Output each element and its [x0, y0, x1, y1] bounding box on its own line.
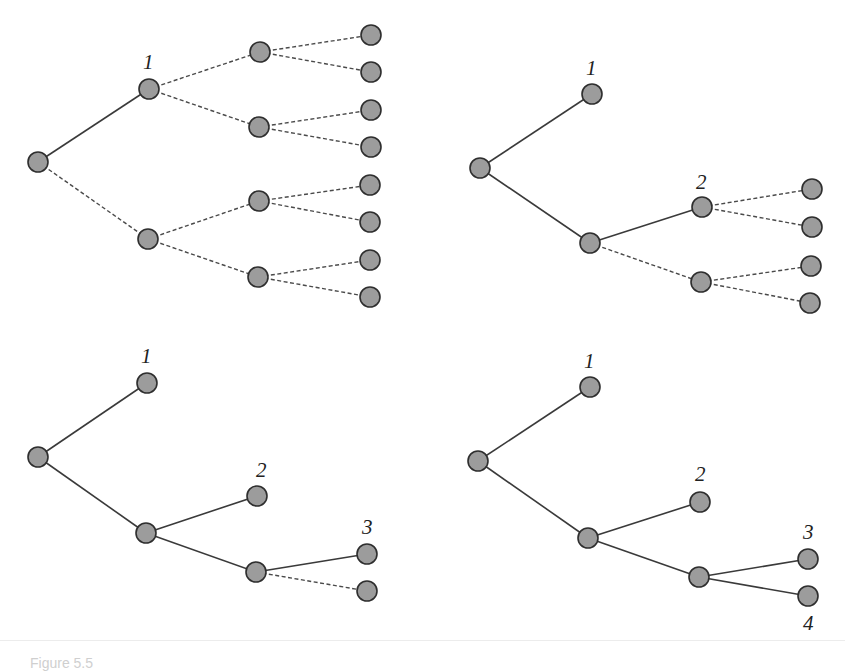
tree-node: [250, 42, 270, 62]
panel-2: 12: [470, 56, 822, 313]
tree-node: [580, 233, 600, 253]
tree-node: [800, 293, 820, 313]
dashed-edge: [259, 201, 370, 222]
dashed-edge: [701, 282, 810, 303]
dashed-edge: [258, 277, 370, 297]
node-order-label: 2: [256, 458, 267, 482]
tree-node: [690, 492, 710, 512]
solid-edge: [146, 533, 256, 572]
panel-3: 123: [28, 344, 377, 601]
dashed-edge: [702, 207, 812, 227]
solid-edge: [38, 383, 147, 457]
solid-edge: [699, 559, 808, 577]
tree-node: [361, 25, 381, 45]
dashed-edge: [702, 189, 812, 207]
dashed-edge: [38, 162, 148, 239]
node-order-label: 1: [584, 349, 595, 373]
solid-edge: [478, 461, 588, 538]
tree-node: [361, 137, 381, 157]
tree-node: [357, 581, 377, 601]
solid-edge: [256, 554, 367, 572]
root-node: [28, 152, 48, 172]
solid-edge: [38, 457, 146, 533]
solid-edge: [699, 577, 808, 596]
dashed-edge: [590, 243, 701, 282]
tree-node: [360, 175, 380, 195]
tree-node: [138, 229, 158, 249]
node-order-label: 2: [695, 462, 706, 486]
node-order-label: 1: [586, 56, 597, 80]
figure-caption: Figure 5.5: [30, 655, 93, 671]
tree-node: [802, 217, 822, 237]
dashed-edge: [148, 201, 259, 239]
solid-edge: [588, 538, 699, 577]
tree-node: [361, 62, 381, 82]
root-node: [468, 451, 488, 471]
tree-node: [247, 486, 267, 506]
tree-node: [360, 287, 380, 307]
tree-node: [249, 191, 269, 211]
tree-node: [802, 179, 822, 199]
dashed-edge: [259, 110, 371, 127]
dashed-edge: [258, 260, 370, 277]
solid-edge: [480, 168, 590, 243]
dashed-edge: [701, 266, 811, 282]
solid-edge: [478, 387, 590, 461]
tree-node: [137, 373, 157, 393]
tree-node: [360, 212, 380, 232]
dashed-edge: [259, 127, 371, 147]
solid-edge: [146, 496, 257, 533]
panel-4: 1234: [468, 349, 818, 635]
solid-edge: [588, 502, 700, 538]
solid-edge: [38, 89, 149, 162]
tree-node: [360, 250, 380, 270]
node-order-label: 3: [361, 515, 373, 539]
solid-edge: [590, 207, 702, 243]
dashed-edge: [260, 52, 371, 72]
caption-divider: [0, 640, 845, 641]
tree-node: [139, 79, 159, 99]
node-order-label: 4: [803, 611, 814, 635]
tree-node: [246, 562, 266, 582]
tree-node: [582, 84, 602, 104]
node-order-label: 1: [143, 50, 154, 74]
tree-node: [248, 267, 268, 287]
tree-node: [361, 100, 381, 120]
tree-node: [801, 256, 821, 276]
tree-node: [798, 549, 818, 569]
tree-node: [580, 377, 600, 397]
tree-node: [691, 272, 711, 292]
dashed-edge: [260, 35, 371, 52]
tree-node: [578, 528, 598, 548]
dashed-edge: [149, 89, 259, 127]
tree-node: [357, 544, 377, 564]
tree-node: [689, 567, 709, 587]
dashed-edge: [256, 572, 367, 591]
tree-node: [798, 586, 818, 606]
root-node: [470, 158, 490, 178]
dashed-edge: [148, 239, 258, 277]
tree-node: [692, 197, 712, 217]
node-order-label: 3: [802, 520, 814, 544]
tree-node: [249, 117, 269, 137]
root-node: [28, 447, 48, 467]
node-order-label: 1: [141, 344, 152, 368]
dashed-edge: [259, 185, 370, 201]
tree-node: [136, 523, 156, 543]
solid-edge: [480, 94, 592, 168]
panel-1: 1: [28, 25, 381, 307]
dashed-edge: [149, 52, 260, 89]
node-order-label: 2: [696, 170, 707, 194]
